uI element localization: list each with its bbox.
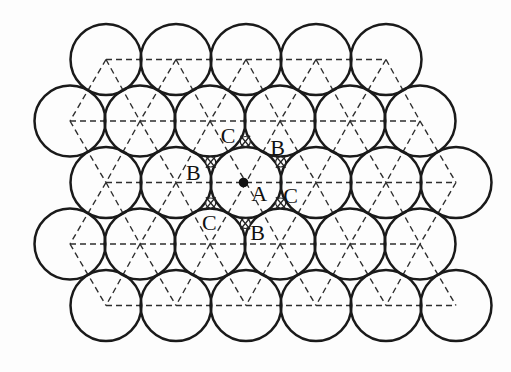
site-label-b: B [186, 160, 201, 185]
hole-marker-icon [240, 218, 250, 229]
site-label-c: C [221, 123, 236, 148]
site-label-a: A [251, 181, 267, 206]
site-label-c: C [283, 183, 298, 208]
site-label-b: B [270, 135, 285, 160]
site-label-b: B [250, 220, 265, 245]
figure-canvas: CBBACCB [0, 0, 511, 372]
site-label-c: C [202, 210, 217, 235]
close-packing-diagram: CBBACCB [0, 0, 511, 372]
hole-marker-icon [206, 156, 216, 167]
central-atom-dot [239, 178, 249, 188]
hole-marker-icon [206, 197, 216, 208]
hole-marker-icon [240, 136, 250, 147]
